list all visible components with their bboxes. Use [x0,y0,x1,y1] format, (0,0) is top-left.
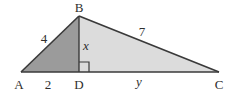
side-label-bc: 7 [139,24,146,39]
vertex-label-d: D [74,77,83,92]
side-label-ad: 2 [45,77,52,92]
triangle-svg: B A D C 4 2 x 7 y [0,0,237,94]
vertex-label-a: A [14,77,24,92]
vertex-label-c: C [215,77,224,92]
side-label-ab: 4 [41,31,48,46]
side-label-dc: y [134,74,142,89]
triangle-diagram: B A D C 4 2 x 7 y [0,0,237,94]
vertex-label-b: B [75,0,84,15]
side-label-bd: x [82,38,89,53]
